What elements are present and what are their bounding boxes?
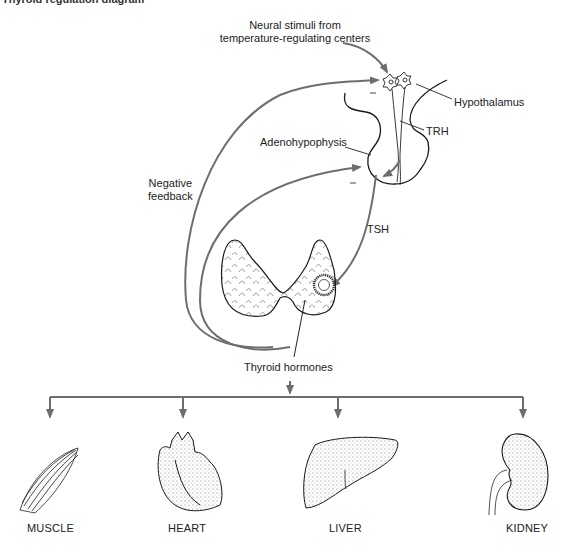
trh-label: TRH: [426, 125, 449, 138]
target-label-muscle: MUSCLE: [27, 522, 74, 535]
adenohypophysis-label: Adenohypophysis: [260, 136, 347, 149]
target-label-heart: HEART: [168, 522, 206, 535]
target-label-kidney: KIDNEY: [506, 522, 548, 535]
distribution-arrows: [50, 381, 523, 417]
tsh-label: TSH: [367, 223, 389, 236]
neural-stimuli-line-1: Neural stimuli from: [215, 19, 375, 32]
negative-feedback-line-2: feedback: [148, 190, 192, 203]
neural-stimuli-line-2: temperature-regulating centers: [215, 32, 375, 45]
thyroid-hormones-label: Thyroid hormones: [244, 361, 333, 374]
hypothalamus-label: Hypothalamus: [454, 96, 524, 109]
negative-feedback-label: Negative feedback: [148, 177, 192, 203]
muscle-icon: [20, 448, 78, 513]
neural-stimuli-label: Neural stimuli from temperature-regulati…: [215, 19, 375, 45]
negative-feedback-line-1: Negative: [148, 177, 192, 190]
diagram-canvas: [0, 0, 575, 555]
hypothalamus-leader: [345, 84, 452, 155]
neural-stimuli-arrow: [343, 43, 387, 72]
thyroid-gland-icon: [222, 240, 336, 316]
inhibition-minus: [350, 93, 376, 183]
kidney-icon: [489, 434, 548, 515]
target-label-liver: LIVER: [329, 522, 362, 535]
liver-icon: [304, 437, 398, 508]
heart-icon: [158, 432, 222, 511]
neuron-icon: [383, 72, 411, 185]
negative-feedback-outer-arrow: [185, 80, 378, 347]
